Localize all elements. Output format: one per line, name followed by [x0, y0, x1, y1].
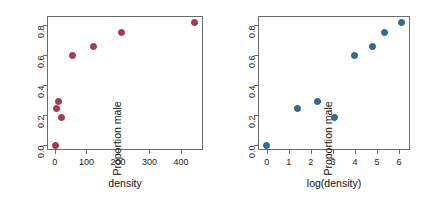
- density-panel: Proportion male density 0.00.20.40.60.80…: [0, 0, 211, 202]
- data-point: [53, 105, 60, 112]
- y-axis-tick-label: 0.2: [248, 115, 257, 135]
- x-axis-title-logdensity: log(density): [258, 178, 410, 189]
- y-axis-tick-label: 0.8: [37, 25, 46, 45]
- data-point: [191, 19, 198, 26]
- x-axis-tick-label: 300: [134, 158, 164, 167]
- x-axis-tick: [267, 150, 268, 154]
- y-axis-tick-label: 0.6: [37, 55, 46, 75]
- y-axis-tick-label: 0.4: [37, 85, 46, 105]
- x-axis-tick: [86, 150, 87, 154]
- data-point: [55, 98, 62, 105]
- plot-area-density: [47, 16, 203, 150]
- data-point: [118, 29, 125, 36]
- x-axis-tick: [399, 150, 400, 154]
- x-axis-tick: [377, 150, 378, 154]
- y-axis-tick-label: 0.8: [248, 25, 257, 45]
- x-axis-tick: [181, 150, 182, 154]
- x-axis-tick-label: 200: [103, 158, 133, 167]
- x-axis-tick: [355, 150, 356, 154]
- two-panel-scatter-figure: Proportion male density 0.00.20.40.60.80…: [0, 0, 422, 202]
- logdensity-panel: Proportion male log(density) 0.00.20.40.…: [211, 0, 422, 202]
- x-axis-tick-label: 0: [40, 158, 70, 167]
- data-point: [398, 19, 405, 26]
- y-axis-tick-label: 0.2: [37, 115, 46, 135]
- data-point: [52, 142, 59, 149]
- x-axis-tick: [55, 150, 56, 154]
- y-axis-tick-label: 0.4: [248, 85, 257, 105]
- data-point: [314, 98, 321, 105]
- data-point: [369, 43, 376, 50]
- x-axis-tick: [118, 150, 119, 154]
- x-axis-tick: [149, 150, 150, 154]
- data-point: [294, 105, 301, 112]
- y-axis-tick-label: 0.6: [248, 55, 257, 75]
- x-axis-tick-label: 6: [384, 158, 414, 167]
- x-axis-tick: [333, 150, 334, 154]
- x-axis-tick-label: 400: [166, 158, 196, 167]
- x-axis-title-density: density: [47, 178, 203, 189]
- data-point: [90, 43, 97, 50]
- x-axis-tick: [289, 150, 290, 154]
- plot-area-logdensity: [258, 16, 410, 150]
- data-point: [69, 52, 76, 59]
- x-axis-tick-label: 100: [71, 158, 101, 167]
- x-axis-tick: [311, 150, 312, 154]
